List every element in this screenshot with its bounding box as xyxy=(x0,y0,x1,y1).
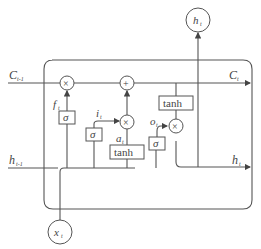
x-input-node xyxy=(48,220,72,244)
c-prev-sub: t-1 xyxy=(17,76,24,82)
h-out-label: h xyxy=(193,14,199,26)
f-gate-sub: t xyxy=(58,105,60,111)
h-next-label: h xyxy=(232,153,238,167)
mult-symbol: × xyxy=(63,78,69,89)
tanh-label: tanh xyxy=(114,146,133,158)
i-gate-path xyxy=(94,121,119,128)
i-gate-label: i xyxy=(96,107,99,119)
mult-symbol: × xyxy=(123,117,129,128)
sigma-label: σ xyxy=(153,137,159,149)
a-gate-sub: t xyxy=(122,139,124,145)
o-gate-path xyxy=(157,126,167,137)
add-symbol: + xyxy=(123,78,129,89)
x-in-label: x xyxy=(53,226,59,238)
c-next-sub: t xyxy=(237,76,239,82)
lstm-cell-diagram: σ × σ tanh × + σ tanh × h t x t C t-1 C … xyxy=(0,0,261,249)
cell-boundary xyxy=(44,60,252,209)
h-prev-label: h xyxy=(9,153,15,167)
tanh-label: tanh xyxy=(163,97,182,109)
h-next-sub: t xyxy=(239,161,241,167)
h-prev-sub: t-1 xyxy=(16,161,23,167)
i-gate-sub: t xyxy=(100,114,102,120)
mult-symbol: × xyxy=(172,121,178,132)
sigma-label: σ xyxy=(90,128,96,140)
sigma-label: σ xyxy=(63,111,69,123)
